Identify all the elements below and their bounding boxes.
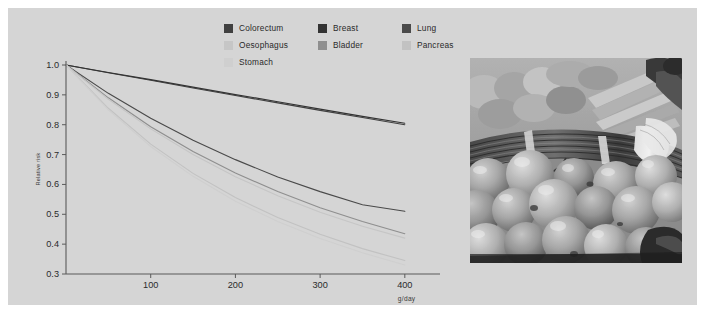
curve-lung — [66, 65, 405, 211]
x-tick-label: 100 — [131, 280, 171, 290]
x-tick-label: 400 — [385, 280, 425, 290]
vegetables-photograph — [470, 58, 682, 263]
y-tick-label: 0.6 — [29, 180, 59, 188]
y-tick-label: 0.5 — [29, 210, 59, 218]
x-axis-label: g/day — [398, 295, 416, 302]
curve-breast — [66, 65, 405, 123]
photo-content — [470, 58, 682, 263]
chart-background: ColorectumOesophagusStomachBreastBladder… — [8, 8, 697, 305]
y-tick-label: 0.8 — [29, 121, 59, 129]
y-tick-label: 0.4 — [29, 240, 59, 248]
y-tick-label: 0.3 — [29, 270, 59, 278]
curve-bladder — [66, 65, 405, 234]
y-tick-label: 1.0 — [29, 61, 59, 69]
figure-panel: ColorectumOesophagusStomachBreastBladder… — [0, 0, 705, 313]
curve-oesophagus — [66, 65, 405, 238]
y-tick-label: 0.7 — [29, 151, 59, 159]
y-tick-label: 0.9 — [29, 91, 59, 99]
x-tick-label: 300 — [300, 280, 340, 290]
x-tick-label: 200 — [215, 280, 255, 290]
